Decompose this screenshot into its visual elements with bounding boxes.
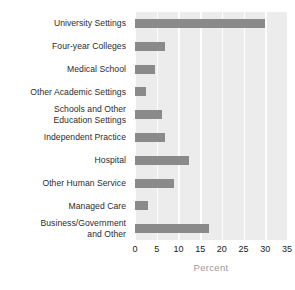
x-tick-label: 35 — [282, 243, 292, 256]
x-tick-label: 25 — [239, 243, 249, 256]
category-label: Managed Care — [0, 201, 126, 211]
category-label: Other Academic Settings — [0, 87, 126, 97]
category-axis: University SettingsFour-year CollegesMed… — [0, 12, 130, 240]
gridline — [265, 12, 266, 240]
category-label: Four-year Colleges — [0, 41, 126, 51]
x-tick-label: 30 — [260, 243, 270, 256]
bar — [135, 133, 165, 142]
x-axis-title: Percent — [135, 262, 287, 273]
bar — [135, 19, 265, 28]
category-label: Other Human Service — [0, 178, 126, 188]
bar — [135, 201, 148, 210]
x-tick-label: 10 — [173, 243, 183, 256]
bar — [135, 156, 189, 165]
gridline — [200, 12, 201, 240]
category-label: University Settings — [0, 18, 126, 28]
gridline — [222, 12, 223, 240]
bar — [135, 65, 155, 74]
category-label: Medical School — [0, 64, 126, 74]
bar — [135, 87, 146, 96]
category-label: Independent Practice — [0, 132, 126, 142]
x-tick-label: 5 — [154, 243, 159, 256]
x-axis: 05101520253035 — [135, 243, 287, 256]
gridline — [178, 12, 179, 240]
category-label: Schools and Other Education Settings — [0, 104, 126, 124]
plot-area — [135, 12, 287, 240]
bar — [135, 179, 174, 188]
x-tick-label: 20 — [217, 243, 227, 256]
gridline — [244, 12, 245, 240]
x-tick-label: 0 — [132, 243, 137, 256]
category-label: Hospital — [0, 155, 126, 165]
bar — [135, 42, 165, 51]
bar — [135, 110, 162, 119]
bar-chart: University SettingsFour-year CollegesMed… — [0, 0, 295, 290]
category-label: Business/Government and Other — [0, 218, 126, 238]
bar — [135, 224, 209, 233]
x-tick-label: 15 — [195, 243, 205, 256]
